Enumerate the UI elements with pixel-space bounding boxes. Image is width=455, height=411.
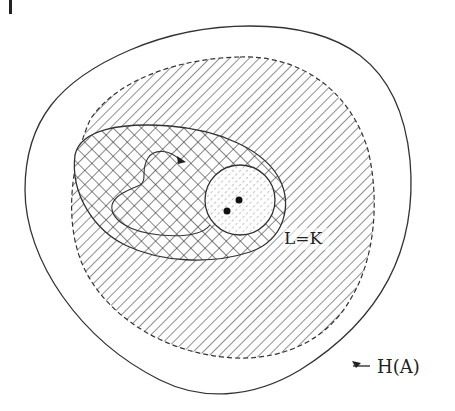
diagram-canvas (0, 0, 455, 411)
point-icon (224, 208, 231, 215)
ha-arrow-icon (352, 361, 361, 368)
edge-mark (9, 0, 12, 14)
point-icon (236, 197, 243, 204)
label-h-of-a: H(A) (377, 356, 420, 377)
label-l-equals-k: L=K (284, 228, 322, 248)
